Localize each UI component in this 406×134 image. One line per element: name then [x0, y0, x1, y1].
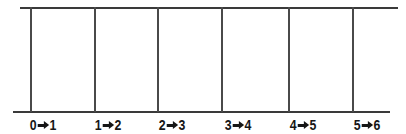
arrow-head [43, 121, 48, 129]
interval-start-value: 0 [30, 115, 37, 134]
interval-start-value: 2 [159, 115, 166, 134]
right-arrow-icon [37, 120, 48, 130]
arrow-head [238, 121, 243, 129]
interval-start-value: 5 [354, 115, 361, 134]
divider-1 [94, 7, 96, 112]
arrow-head [172, 121, 177, 129]
interval-label-5-6: 56 [341, 114, 394, 134]
right-arrow-icon [102, 120, 113, 130]
bottom-horizontal-rule [13, 111, 390, 113]
arrow-head [367, 121, 372, 129]
interval-label-group: 011223344556 [0, 114, 406, 134]
interval-start-value: 1 [95, 115, 102, 134]
arrow-head [108, 121, 113, 129]
divider-3 [221, 7, 223, 112]
interval-end-value: 5 [310, 115, 317, 134]
interval-diagram: 011223344556 [0, 0, 406, 134]
right-arrow-icon [166, 120, 177, 130]
divider-0 [30, 7, 32, 112]
interval-label-3-4: 34 [212, 114, 265, 134]
divider-5 [352, 7, 354, 112]
interval-end-value: 2 [115, 115, 122, 134]
interval-label-0-1: 01 [17, 114, 70, 134]
right-arrow-icon [361, 120, 372, 130]
right-arrow-icon [297, 120, 308, 130]
interval-end-value: 4 [245, 115, 252, 134]
divider-2 [157, 7, 159, 112]
arrow-head [303, 121, 308, 129]
interval-label-1-2: 12 [82, 114, 135, 134]
interval-end-value: 1 [50, 115, 57, 134]
interval-start-value: 4 [290, 115, 297, 134]
divider-4 [288, 7, 290, 112]
interval-label-4-5: 45 [277, 114, 330, 134]
interval-end-value: 3 [179, 115, 186, 134]
interval-label-2-3: 23 [146, 114, 199, 134]
right-arrow-icon [232, 120, 243, 130]
interval-start-value: 3 [225, 115, 232, 134]
top-horizontal-rule [20, 7, 398, 9]
interval-end-value: 6 [374, 115, 381, 134]
